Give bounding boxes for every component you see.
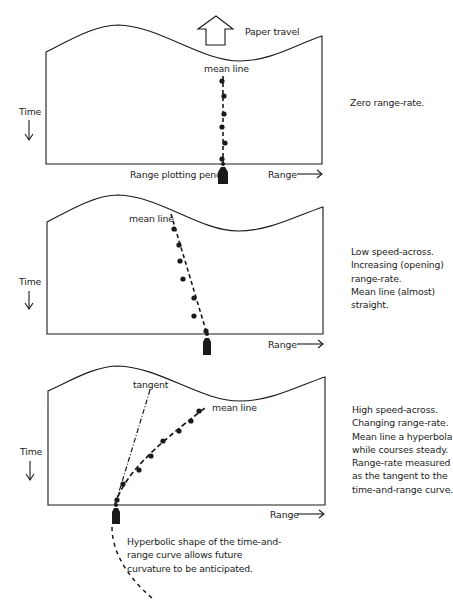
panel-2-mean-line-label: mean line [129, 212, 174, 225]
plot-point [148, 453, 153, 458]
hyperbolic-shape-caption: Hyperbolic shape of the time-and- range … [127, 535, 281, 575]
plot-point [219, 78, 224, 83]
tangent-label: tangent [133, 378, 168, 391]
plot-point [191, 313, 196, 318]
plot-point [171, 226, 176, 231]
panel-2-range-label: Range [268, 338, 297, 351]
panel-1-time-label: Time [19, 105, 41, 118]
panel-2-description: Low speed-across. Increasing (opening) r… [351, 245, 444, 311]
paper-travel-arrow-icon [198, 16, 233, 45]
plot-point [177, 258, 182, 263]
panel-2-time-label: Time [19, 275, 41, 288]
panel-3-paper [48, 366, 325, 505]
panel-2-time-arrow-icon [25, 291, 33, 309]
plot-point [176, 428, 181, 433]
panel-1-range-arrow-icon [297, 170, 322, 178]
plot-point [221, 93, 226, 98]
plot-point [120, 481, 125, 486]
plot-point [222, 140, 227, 145]
plot-points [114, 78, 227, 502]
panel-2-range-arrow-icon [297, 340, 323, 348]
panel-3-pencil-icon [112, 503, 120, 524]
panel-3-description: High speed-across. Changing range-rate. … [352, 403, 453, 496]
panel-3-mean-line-label: mean line [212, 401, 257, 414]
plot-point [219, 156, 224, 161]
panel-2-mean-line [171, 214, 207, 334]
plot-point [136, 467, 141, 472]
panel-2-paper [47, 195, 323, 334]
plot-point [176, 242, 181, 247]
plot-point [114, 497, 119, 502]
paper-travel-label: Paper travel [245, 25, 299, 38]
panel-3-time-arrow-icon [26, 461, 34, 480]
panel-3-range-label: Range [270, 508, 299, 521]
panel-1-description: Zero range-rate. [350, 96, 424, 109]
plot-point [196, 408, 201, 413]
panel-1-range-label: Range [268, 168, 297, 181]
tangent-line [115, 390, 150, 505]
plot-point [160, 438, 165, 443]
panel-3-time-label: Time [20, 445, 42, 458]
panel-2-pencil-icon [203, 332, 211, 355]
plot-point [221, 111, 226, 116]
panel-3-range-arrow-icon [297, 510, 324, 518]
panel-1-mean-line-label: mean line [204, 62, 249, 75]
panel-1-paper [46, 25, 322, 164]
plot-point [191, 295, 196, 300]
range-plotting-pencil-label: Range plotting pencil [130, 168, 226, 181]
plot-point [180, 276, 185, 281]
panel-1-time-arrow-icon [25, 120, 33, 140]
plot-point [188, 418, 193, 423]
plot-point [219, 124, 224, 129]
